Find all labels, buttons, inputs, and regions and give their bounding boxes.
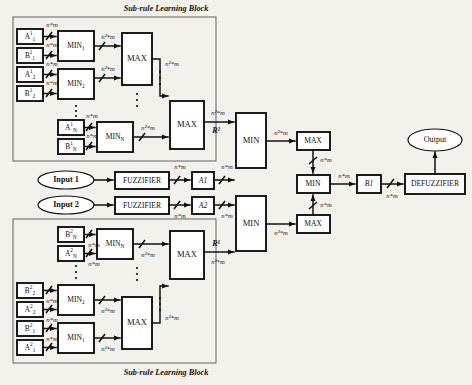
set-b1-label: B1 xyxy=(365,179,373,188)
label-r2: R² xyxy=(211,126,220,135)
defuzzifier-label: DEFUZZIFIER xyxy=(411,179,460,188)
label-n2m-mn: n²*m xyxy=(141,124,155,131)
label-n2m-minbot: n²*m xyxy=(274,229,288,236)
agg-max-bottom-label: MAX xyxy=(304,219,322,228)
label-n2m-bmax1: n²*m xyxy=(165,314,179,321)
set-a1-label: A1 xyxy=(198,176,207,185)
label-n2m-max1: n²*m xyxy=(165,60,179,67)
label-nm-a1: n*m xyxy=(221,163,233,170)
label-n2m-b2u: n²*m xyxy=(101,307,115,314)
fuzzifier-2-label: FUZZIFIER xyxy=(123,201,162,210)
label-nm-b2: n*m xyxy=(88,260,100,267)
fuzzifier-1-label: FUZZIFIER xyxy=(123,176,162,185)
label-n2m-max2: n²*m xyxy=(211,109,225,116)
agg-min-bottom-label: MIN xyxy=(243,218,261,228)
bottom-max-1-label: MAX xyxy=(127,317,148,327)
label-nm-fz1: n*m xyxy=(174,163,186,170)
top-block-caption: Sub-rule Learning Block xyxy=(124,4,210,13)
set-a2-label: A2 xyxy=(198,201,208,210)
input-1-label: Input 1 xyxy=(53,175,79,184)
top-max-2-label: MAX xyxy=(177,119,198,129)
label-nm-b5: n*m xyxy=(46,335,58,342)
bottom-block-caption: Sub-rule Learning Block xyxy=(124,368,210,377)
label-n2m-bmax2: n²*m xyxy=(211,258,225,265)
top-max-1-label: MAX xyxy=(127,53,148,63)
label-nm-minc: n*m xyxy=(338,172,350,179)
label-n2m-b1u: n²*m xyxy=(101,345,115,352)
label-nm-a2: n*m xyxy=(221,212,233,219)
label-nm-t2: n*m xyxy=(46,41,58,48)
label-r1: R¹ xyxy=(211,239,220,248)
label-nm-t1: n*m xyxy=(46,21,58,28)
label-nm-maxbot: n*m xyxy=(320,201,332,208)
agg-min-center-label: MIN xyxy=(306,179,321,188)
label-nm-t6: n*m xyxy=(86,132,98,139)
diagram-canvas: Sub-rule Learning Block A11 B11 A12 B12 … xyxy=(0,0,472,385)
output-label: Output xyxy=(424,135,447,144)
label-n2m-bn: n²*m xyxy=(141,251,155,258)
label-n2m-mintop: n²*m xyxy=(274,129,288,136)
label-nm-b1out: n*m xyxy=(386,192,398,199)
label-nm-b4: n*m xyxy=(46,316,58,323)
label-nm-b1: n*m xyxy=(88,241,100,248)
label-nm-t5: n*m xyxy=(86,112,98,119)
input-2-label: Input 2 xyxy=(53,200,79,209)
label-nm-t4: n*m xyxy=(46,79,58,86)
label-n2m-m1: n²*m xyxy=(101,33,115,40)
label-nm-b3: n*m xyxy=(46,297,58,304)
bottom-max-2-label: MAX xyxy=(177,249,198,259)
agg-max-top-label: MAX xyxy=(304,136,322,145)
label-nm-t3: n*m xyxy=(46,60,58,67)
agg-min-top-label: MIN xyxy=(243,135,261,145)
label-n2m-m2: n²*m xyxy=(101,65,115,72)
label-nm-fz2: n*m xyxy=(174,212,186,219)
block-diagram-svg: Sub-rule Learning Block A11 B11 A12 B12 … xyxy=(0,0,472,385)
label-nm-maxtop: n*m xyxy=(320,156,332,163)
